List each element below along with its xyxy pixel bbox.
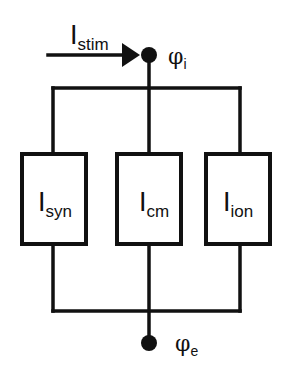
bottom-node-dot: [141, 335, 157, 351]
bottom-bus: [53, 244, 240, 338]
bottom-node-label: φe: [175, 331, 198, 359]
arrowhead-icon: [122, 43, 140, 67]
top-node-label: φi: [168, 44, 187, 72]
branch-cm: Icm: [117, 154, 181, 244]
branch-ion: Iion: [206, 154, 270, 244]
branch-box: [206, 154, 270, 244]
branch-box: [22, 154, 86, 244]
branch-box: [117, 154, 181, 244]
branch-syn: Isyn: [22, 154, 86, 244]
top-bus: [53, 60, 240, 155]
stimulus-label: Istim: [70, 20, 109, 54]
circuit-diagram: Istim φi Isyn Icm Iion: [0, 0, 286, 372]
